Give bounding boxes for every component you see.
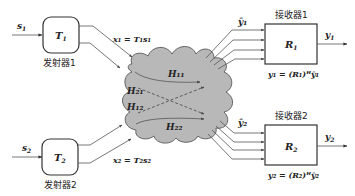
rx2-input-label: ŷ₂	[237, 118, 247, 128]
receiver-1: 接收器1 R1 y1 y₁ = (R₁)ᴴŷ₁	[265, 9, 347, 79]
rx2-equation: y₂ = (R₂)ᴴŷ₂	[267, 170, 320, 180]
receiver-2: 接收器2 R2 y2 y₂ = (R₂)ᴴŷ₂	[265, 110, 347, 180]
transmitter-2-label: 发射器2	[44, 179, 77, 190]
transmitter-1: s1 T1 发射器1 x₁ = T₁s₁	[12, 17, 151, 68]
h12-label: H₁₂	[126, 102, 143, 112]
rx1-output-label: y1	[324, 30, 334, 41]
receiver-1-label: 接收器1	[275, 9, 308, 20]
h11-label: H₁₁	[167, 69, 184, 79]
h22-label: H₂₂	[165, 122, 182, 132]
input-label-s1: s1	[17, 21, 26, 32]
rx1-input-label: ŷ₁	[237, 17, 247, 27]
transmitter-1-label: 发射器1	[43, 57, 76, 68]
tx2-output-equation: x₂ = T₂s₂	[112, 155, 152, 165]
rx2-input-line-4	[208, 134, 264, 159]
rx1-input-line-1	[206, 30, 264, 58]
rx1-equation: y₁ = (R₁)ᴴŷ₁	[267, 69, 319, 79]
h21-label: H₂₁	[126, 86, 143, 96]
rx2-input-line-2	[216, 126, 264, 142]
receiver-2-label: 接收器2	[275, 110, 308, 121]
tx1-output-equation: x₁ = T₁s₁	[112, 34, 151, 44]
rx2-output-label: y2	[324, 132, 334, 143]
mimo-system-diagram: s1 T1 发射器1 x₁ = T₁s₁ s2 T2 发射器2 x₂ = T₂s…	[0, 0, 355, 196]
input-label-s2: s2	[22, 143, 31, 154]
tx2-output-line-a	[78, 125, 122, 145]
channel-cloud: H₁₁ H₂₁ H₁₂ H₂₂	[123, 47, 233, 144]
transmitter-2: s2 T2 发射器2 x₂ = T₂s₂	[12, 125, 152, 190]
tx1-output-line-b	[79, 43, 120, 68]
